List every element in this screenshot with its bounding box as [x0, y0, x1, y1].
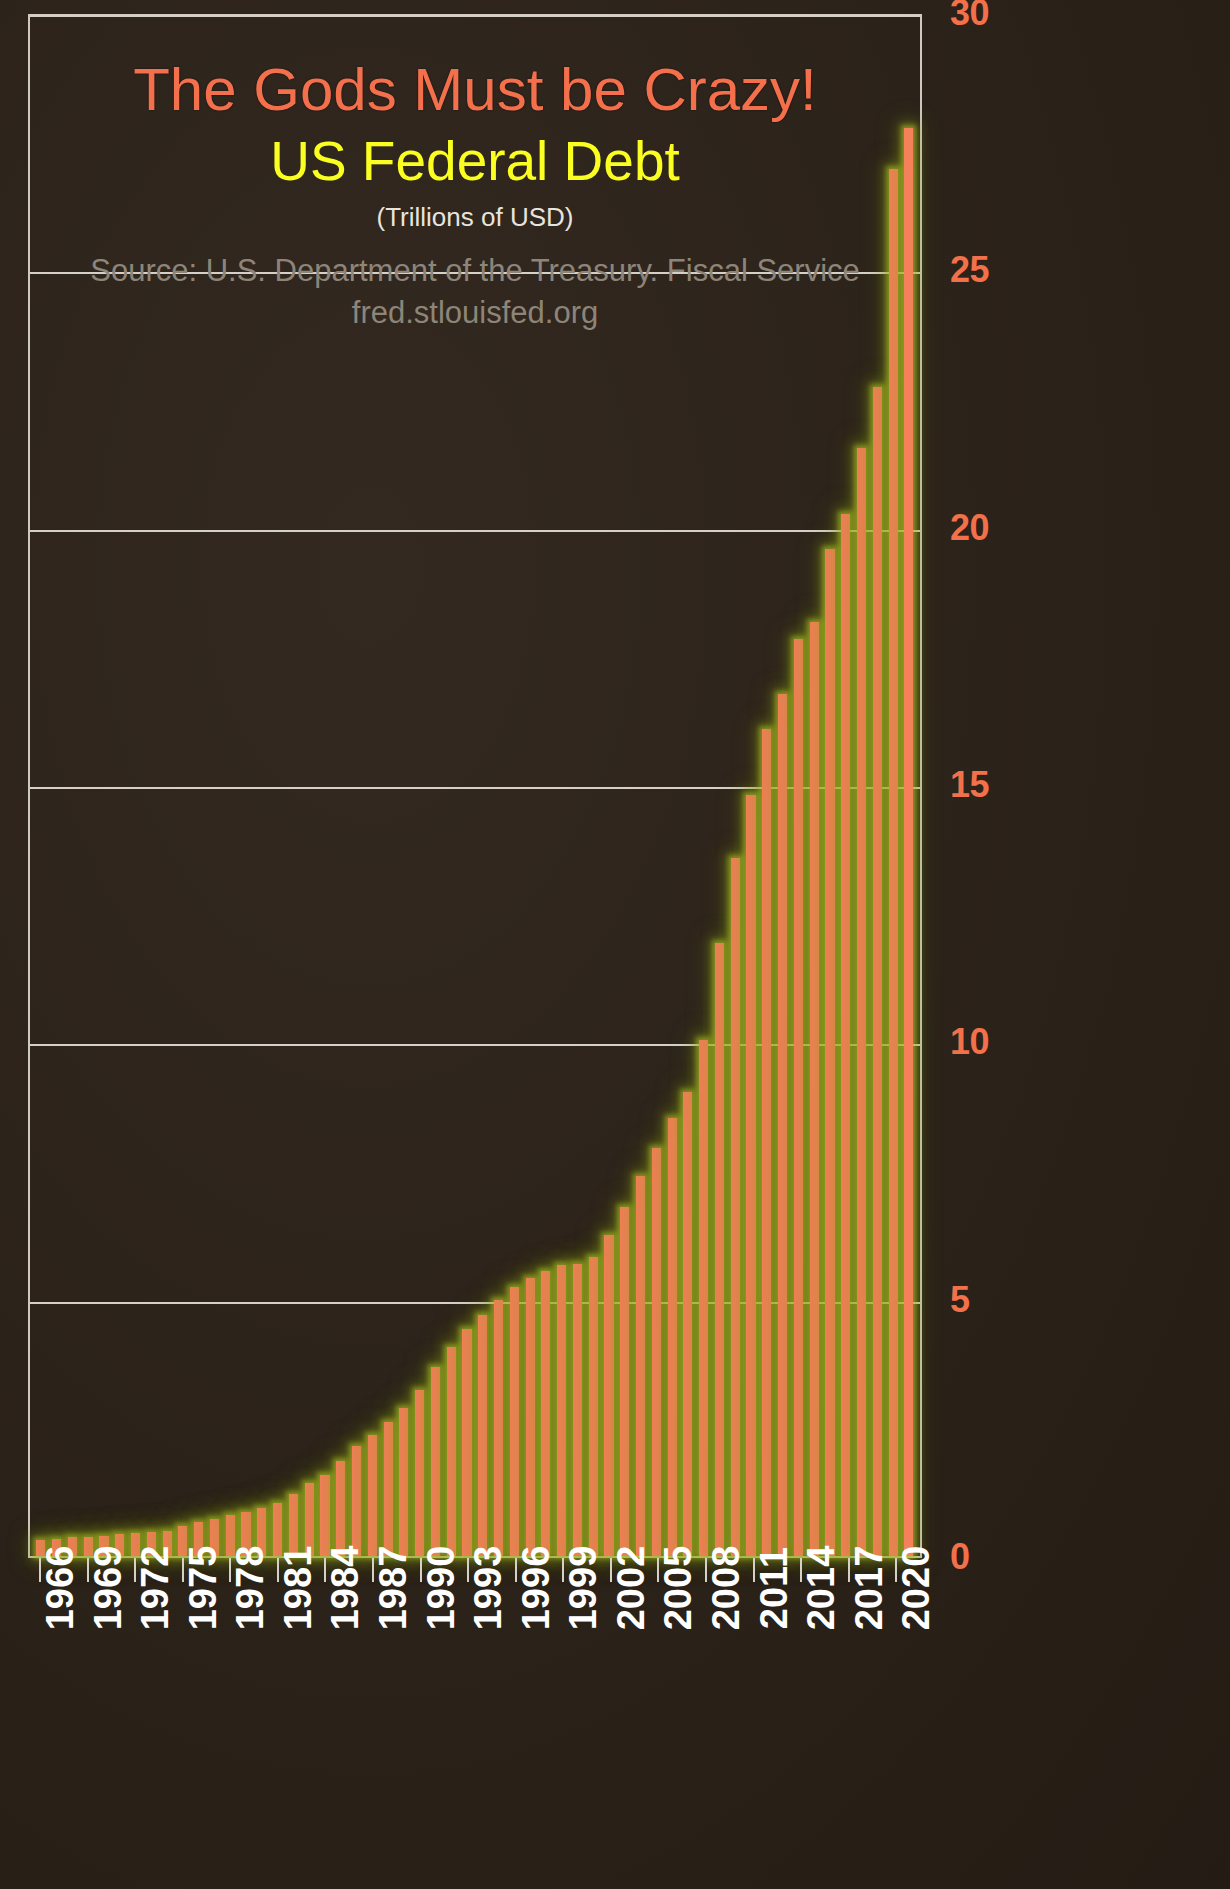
bar-slot	[254, 16, 270, 1556]
bar-slot	[664, 16, 680, 1556]
bar-2018	[857, 448, 866, 1556]
bar-slot	[270, 16, 286, 1556]
bar-2006	[668, 1118, 677, 1556]
bar-slot	[522, 16, 538, 1556]
bar-slot	[364, 16, 380, 1556]
x-tick-label: 1999	[562, 1546, 605, 1631]
bar-slot	[617, 16, 633, 1556]
bar-slot	[759, 16, 775, 1556]
bar-1988	[384, 1422, 393, 1556]
bar-slot	[128, 16, 144, 1556]
bar-2010	[731, 858, 740, 1556]
x-tick-label: 1975	[182, 1546, 225, 1631]
bar-slot	[49, 16, 65, 1556]
y-tick-label-5: 5	[950, 1279, 1040, 1321]
bar-2020	[889, 169, 898, 1556]
bar-slot	[459, 16, 475, 1556]
bar-slot	[743, 16, 759, 1556]
y-tick-label-30: 30	[950, 0, 1040, 34]
x-tick-label: 1969	[87, 1546, 130, 1631]
bar-1998	[541, 1271, 550, 1556]
y-tick-label-25: 25	[950, 249, 1040, 291]
bar-1999	[557, 1265, 566, 1556]
bar-1990	[415, 1390, 424, 1556]
bar-slot	[601, 16, 617, 1556]
bar-slot	[648, 16, 664, 1556]
bar-2000	[573, 1264, 582, 1556]
bar-slot	[159, 16, 175, 1556]
bar-2009	[715, 943, 724, 1556]
bar-slot	[349, 16, 365, 1556]
bar-slot	[396, 16, 412, 1556]
bar-2013	[778, 694, 787, 1556]
bar-slot	[96, 16, 112, 1556]
bar-slot	[806, 16, 822, 1556]
bar-2014	[794, 639, 803, 1556]
bar-1993	[462, 1329, 471, 1556]
bar-slot	[191, 16, 207, 1556]
bar-slot	[317, 16, 333, 1556]
bar-slot	[207, 16, 223, 1556]
x-tick-label: 1984	[324, 1546, 367, 1631]
bar-slot	[112, 16, 128, 1556]
bar-2008	[699, 1040, 708, 1556]
bar-slot	[585, 16, 601, 1556]
bar-2005	[652, 1148, 661, 1556]
bar-slot	[33, 16, 49, 1556]
x-tick-label: 1966	[39, 1546, 82, 1631]
bar-1985	[336, 1461, 345, 1556]
plot-area	[28, 14, 922, 1558]
bar-slot	[65, 16, 81, 1556]
bar-slot	[238, 16, 254, 1556]
bar-slot	[838, 16, 854, 1556]
bar-slot	[538, 16, 554, 1556]
bar-slot	[775, 16, 791, 1556]
x-tick-label: 1990	[420, 1546, 463, 1631]
bar-slot	[854, 16, 870, 1556]
bar-2012	[762, 729, 771, 1556]
bar-2017	[841, 514, 850, 1556]
bar-2004	[636, 1176, 645, 1556]
bar-1994	[478, 1315, 487, 1556]
bar-1997	[526, 1278, 535, 1556]
y-tick-label-15: 15	[950, 764, 1040, 806]
bar-1991	[431, 1367, 440, 1556]
x-tick-label: 2005	[657, 1546, 700, 1631]
bar-slot	[443, 16, 459, 1556]
x-tick-label: 2008	[705, 1546, 748, 1631]
bar-slot	[143, 16, 159, 1556]
bar-slot	[428, 16, 444, 1556]
bar-slot	[727, 16, 743, 1556]
bar-slot	[506, 16, 522, 1556]
x-tick-label: 2017	[848, 1546, 891, 1631]
y-tick-label-0: 0	[950, 1536, 1040, 1578]
bar-1987	[368, 1435, 377, 1556]
bar-1995	[494, 1300, 503, 1556]
x-tick-label: 1972	[134, 1546, 177, 1631]
bar-1984	[320, 1475, 329, 1556]
bar-2001	[589, 1257, 598, 1556]
bar-slot	[175, 16, 191, 1556]
bar-slot	[901, 16, 917, 1556]
x-tick-label: 1996	[515, 1546, 558, 1631]
x-tick-label: 1987	[372, 1546, 415, 1631]
bar-slot	[412, 16, 428, 1556]
bar-slot	[554, 16, 570, 1556]
bar-1989	[399, 1408, 408, 1556]
bar-slot	[475, 16, 491, 1556]
x-tick-label: 2011	[753, 1547, 796, 1629]
x-tick-label: 2002	[610, 1546, 653, 1631]
bar-slot	[570, 16, 586, 1556]
bar-series	[30, 16, 920, 1556]
bar-2003	[620, 1207, 629, 1556]
x-tick-label: 2020	[895, 1546, 938, 1631]
bar-1986	[352, 1446, 361, 1556]
x-tick-label: 1993	[467, 1546, 510, 1631]
bar-slot	[633, 16, 649, 1556]
bar-slot	[869, 16, 885, 1556]
bar-1996	[510, 1287, 519, 1556]
bar-slot	[491, 16, 507, 1556]
bar-slot	[333, 16, 349, 1556]
y-tick-label-20: 20	[950, 507, 1040, 549]
bar-slot	[885, 16, 901, 1556]
